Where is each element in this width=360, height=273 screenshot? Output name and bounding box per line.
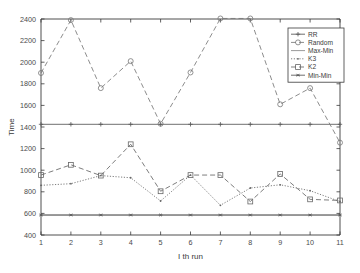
x-tick-label: 6 [189,238,193,247]
legend-label: RR [308,31,318,38]
x-tick-label: 10 [306,238,314,247]
x-tick-label: 2 [69,238,73,247]
y-tick-label: 1600 [20,101,36,110]
data-point-marker [40,184,42,186]
x-axis-title: I th run [178,252,203,261]
data-point-marker [220,204,222,206]
y-tick-label: 1400 [20,123,36,132]
legend-label: K2 [308,63,316,70]
data-point-marker [70,183,72,185]
data-point-marker [160,200,162,202]
time-vs-run-line-chart: 4006008001000120014001600180020002200240… [0,0,360,273]
y-tick-label: 600 [24,209,36,218]
x-tick-label: 4 [129,238,133,247]
data-point-marker [130,177,132,179]
y-tick-label: 800 [24,187,36,196]
legend-label: Max-Min [308,47,334,54]
chart-figure: 4006008001000120014001600180020002200240… [0,0,360,273]
legend-label: K3 [308,55,316,62]
data-point-marker [279,184,281,186]
x-tick-label: 8 [248,238,252,247]
y-tick-label: 1800 [20,79,36,88]
y-tick-label: 400 [24,231,36,240]
chart-legend: RRRandomMax-MinK3K2Min-Min [288,28,344,82]
x-tick-label: 3 [99,238,103,247]
y-tick-label: 2200 [20,36,36,45]
y-tick-label: 2000 [20,58,36,67]
y-tick-label: 1000 [20,166,36,175]
x-tick-label: 1 [39,238,43,247]
legend-label: Random [308,39,333,46]
x-tick-label: 9 [278,238,282,247]
y-tick-label: 1200 [20,144,36,153]
legend-marker-sample [297,58,299,60]
legend-label: Min-Min [308,72,332,79]
data-point-marker [309,190,311,192]
x-tick-label: 11 [336,238,343,247]
x-tick-label: 7 [218,238,222,247]
y-axis-title: Time [7,118,16,136]
data-point-marker [249,187,251,189]
data-point-marker [339,201,341,203]
y-tick-label: 2400 [20,15,36,24]
x-tick-label: 5 [159,238,163,247]
